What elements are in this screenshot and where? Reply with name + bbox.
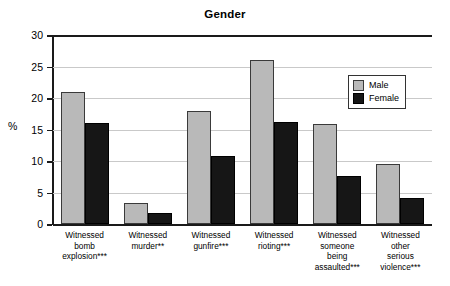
bar-chart: Gender % 051015202530 Witnessedbombexplo… [0,0,450,286]
y-tick-label: 5 [5,188,43,198]
bar-group [61,35,109,224]
legend-label-female: Female [369,94,399,103]
x-axis-label: Witnessedotherseriousviolence*** [363,230,437,272]
bar-group [376,35,424,224]
chart-title: Gender [0,8,450,20]
gridline [53,161,432,162]
bar-group [313,35,361,224]
legend-label-male: Male [369,81,389,90]
y-tick-mark [47,67,52,69]
bar-group [250,35,298,224]
bar-male [187,111,211,224]
bar-female [274,122,298,224]
legend-item-female: Female [353,92,399,105]
bar-group [187,35,235,224]
bar-female [211,156,235,224]
y-tick-mark [47,35,52,37]
y-tick-mark [47,161,52,163]
legend-item-male: Male [353,79,399,92]
bar-female [337,176,361,225]
legend-swatch-male-icon [353,80,364,91]
gridline [53,67,432,68]
bar-female [85,123,109,224]
y-tick-label: 15 [5,125,43,135]
y-tick-label: 20 [5,93,43,103]
chart-legend: Male Female [348,75,406,109]
y-tick-label: 25 [5,62,43,72]
bar-female [400,198,424,224]
y-tick-mark [47,224,52,226]
bar-group [124,35,172,224]
bar-male [61,92,85,224]
gridline [53,193,432,194]
gridline [53,130,432,131]
bar-male [313,124,337,224]
y-tick-label: 0 [5,219,43,229]
bar-male [376,164,400,224]
x-axis-line [53,224,432,226]
bar-male [124,203,148,224]
y-tick-mark [47,130,52,132]
gridline [53,35,432,37]
bar-female [148,213,172,224]
y-tick-label: 10 [5,156,43,166]
legend-swatch-female-icon [353,93,364,104]
y-tick-mark [47,193,52,195]
bar-male [250,60,274,224]
y-tick-mark [47,98,52,100]
y-tick-label: 30 [5,30,43,40]
